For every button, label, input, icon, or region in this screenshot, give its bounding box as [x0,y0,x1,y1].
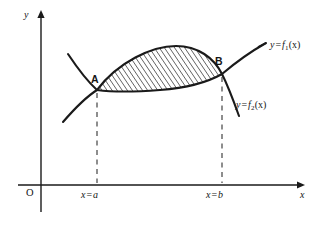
y-axis-arrowhead [37,10,44,18]
dashed-ordinate-group [97,77,222,183]
curve-label-f2: y=f2(x) [236,100,266,112]
point-label-a: A [91,74,99,85]
origin-label: O [26,188,34,199]
area-between-curves-diagram [0,0,330,225]
point-label-b: B [215,56,223,67]
tick-label-x-equals-a: x=a [81,190,98,200]
x-axis-arrowhead [297,181,305,188]
tick-a-equals: = [85,189,93,200]
f1-label-argument: (x) [289,39,301,50]
curve-label-f1: y=f1(x) [270,40,300,52]
figure-root: y x O A B x=a x=b y=f1(x) y=f2(x) [0,0,330,225]
x-axis-label: x [300,190,304,200]
f1-label-equals: = [274,39,282,50]
tick-b-equals: = [210,189,218,200]
y-axis-label: y [24,10,28,20]
f2-label-argument: (x) [255,99,267,110]
tick-b-value: b [218,189,223,200]
tick-a-value: a [93,189,98,200]
f2-label-equals: = [240,99,248,110]
tick-label-x-equals-b: x=b [206,190,223,200]
